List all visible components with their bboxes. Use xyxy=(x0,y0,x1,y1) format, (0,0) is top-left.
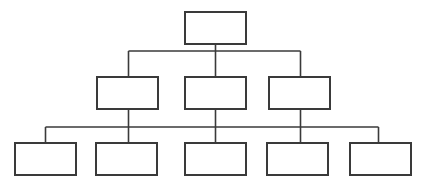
node-layer xyxy=(15,12,411,175)
node-box-n4[interactable] xyxy=(269,77,330,109)
node-box-n3[interactable] xyxy=(185,77,246,109)
org-chart-canvas xyxy=(0,0,425,188)
node-box-n7[interactable] xyxy=(185,143,246,175)
node-box-n5[interactable] xyxy=(15,143,76,175)
node-box-n1[interactable] xyxy=(185,12,246,44)
node-box-n2[interactable] xyxy=(97,77,158,109)
org-chart-svg xyxy=(0,0,425,188)
node-box-n8[interactable] xyxy=(267,143,328,175)
node-box-n9[interactable] xyxy=(350,143,411,175)
node-box-n6[interactable] xyxy=(96,143,157,175)
